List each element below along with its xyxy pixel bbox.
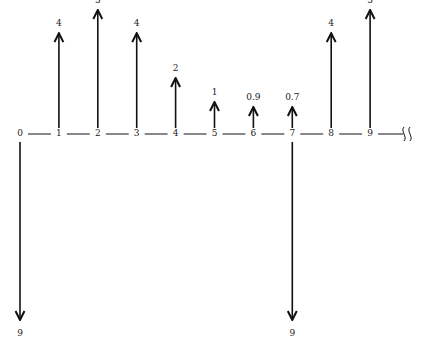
period-label: 3 — [134, 129, 140, 138]
inflow-amount: 0.7 — [285, 93, 299, 102]
inflow-amount: 4 — [56, 19, 62, 28]
inflow-amount: 2 — [173, 64, 179, 73]
cash-flow-arrows — [20, 10, 370, 320]
inflow-amount: 5 — [95, 0, 101, 5]
period-label: 9 — [367, 129, 373, 138]
cash-flow-diagram — [0, 0, 430, 353]
period-label: 8 — [328, 129, 334, 138]
inflow-amount: 4 — [328, 19, 334, 28]
period-label: 4 — [173, 129, 179, 138]
axis-break-icon — [403, 127, 405, 141]
inflow-amount: 1 — [212, 88, 218, 97]
outflow-amount: 9 — [289, 329, 295, 338]
period-label: 5 — [212, 129, 218, 138]
period-label: 1 — [56, 129, 62, 138]
axis-break-icon — [409, 127, 411, 141]
time-axis — [28, 127, 411, 141]
inflow-amount: 4 — [134, 19, 140, 28]
outflow-amount: 9 — [17, 329, 23, 338]
inflow-amount: 5 — [367, 0, 373, 5]
period-label: 6 — [251, 129, 257, 138]
period-label: 0 — [17, 129, 23, 138]
period-label: 7 — [289, 129, 295, 138]
inflow-amount: 0.9 — [246, 93, 260, 102]
period-label: 2 — [95, 129, 101, 138]
